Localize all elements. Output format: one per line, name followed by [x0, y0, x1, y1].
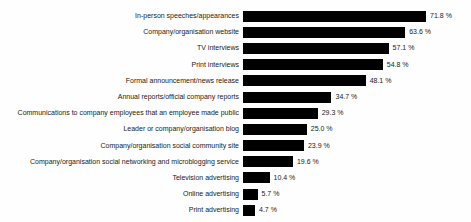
- category-label: Online advertising: [0, 190, 243, 198]
- chart-canvas: In-person speeches/appearances71.8 %Comp…: [0, 0, 471, 222]
- bar: [243, 92, 331, 103]
- bar: [243, 75, 366, 86]
- value-label: 57.1 %: [393, 44, 415, 52]
- value-label: 10.4 %: [274, 174, 296, 182]
- bar-area: 25.0 %: [243, 121, 471, 137]
- bar-area: 48.1 %: [243, 73, 471, 89]
- value-label: 48.1 %: [370, 77, 392, 85]
- value-label: 25.0 %: [311, 125, 333, 133]
- category-label: Formal announcement/news release: [0, 77, 243, 85]
- bar: [243, 205, 255, 216]
- bar-area: 4.7 %: [243, 202, 471, 218]
- category-label: Leader or company/organisation blog: [0, 125, 243, 133]
- bar: [243, 140, 304, 151]
- bar-row: Communications to company employees that…: [0, 105, 471, 121]
- bar: [243, 59, 383, 70]
- bar-row: Company/organisation social community si…: [0, 138, 471, 154]
- bar-row: TV interviews57.1 %: [0, 40, 471, 56]
- bar-area: 23.9 %: [243, 138, 471, 154]
- value-label: 4.7 %: [259, 206, 277, 214]
- category-label: Company/organisation social community si…: [0, 142, 243, 150]
- value-label: 54.8 %: [387, 61, 409, 69]
- category-label: Communications to company employees that…: [0, 109, 243, 117]
- bar-area: 63.6 %: [243, 24, 471, 40]
- category-label: In-person speeches/appearances: [0, 12, 243, 20]
- value-label: 19.6 %: [297, 158, 319, 166]
- bar-row: Print advertising4.7 %: [0, 202, 471, 218]
- category-label: Print interviews: [0, 61, 243, 69]
- bar-row: In-person speeches/appearances71.8 %: [0, 8, 471, 24]
- bar-row: Television advertising10.4 %: [0, 170, 471, 186]
- value-label: 71.8 %: [430, 12, 452, 20]
- bar: [243, 108, 318, 119]
- value-label: 23.9 %: [308, 142, 330, 150]
- bar-row: Leader or company/organisation blog25.0 …: [0, 121, 471, 137]
- bar: [243, 124, 307, 135]
- value-label: 34.7 %: [335, 93, 357, 101]
- bar-area: 10.4 %: [243, 170, 471, 186]
- bar: [243, 189, 258, 200]
- bar-area: 57.1 %: [243, 40, 471, 56]
- category-label: TV interviews: [0, 44, 243, 52]
- bar-row: Company/organisation website63.6 %: [0, 24, 471, 40]
- value-label: 63.6 %: [409, 28, 431, 36]
- category-label: Print advertising: [0, 206, 243, 214]
- category-label: Television advertising: [0, 174, 243, 182]
- category-label: Company/organisation social networking a…: [0, 158, 243, 166]
- value-label: 5.7 %: [262, 190, 280, 198]
- bar: [243, 156, 293, 167]
- bar-row: Company/organisation social networking a…: [0, 154, 471, 170]
- bar-area: 71.8 %: [243, 8, 471, 24]
- bar-row: Print interviews54.8 %: [0, 57, 471, 73]
- horizontal-bar-chart: In-person speeches/appearances71.8 %Comp…: [0, 8, 471, 218]
- bar-area: 29.3 %: [243, 105, 471, 121]
- bar: [243, 43, 389, 54]
- bar: [243, 27, 405, 38]
- bar: [243, 172, 270, 183]
- value-label: 29.3 %: [322, 109, 344, 117]
- bar-area: 5.7 %: [243, 186, 471, 202]
- bar-row: Annual reports/official company reports3…: [0, 89, 471, 105]
- bar-area: 34.7 %: [243, 89, 471, 105]
- bar-area: 54.8 %: [243, 57, 471, 73]
- bar-area: 19.6 %: [243, 154, 471, 170]
- bar-row: Online advertising5.7 %: [0, 186, 471, 202]
- bar: [243, 11, 426, 22]
- bar-row: Formal announcement/news release48.1 %: [0, 73, 471, 89]
- category-label: Company/organisation website: [0, 28, 243, 36]
- category-label: Annual reports/official company reports: [0, 93, 243, 101]
